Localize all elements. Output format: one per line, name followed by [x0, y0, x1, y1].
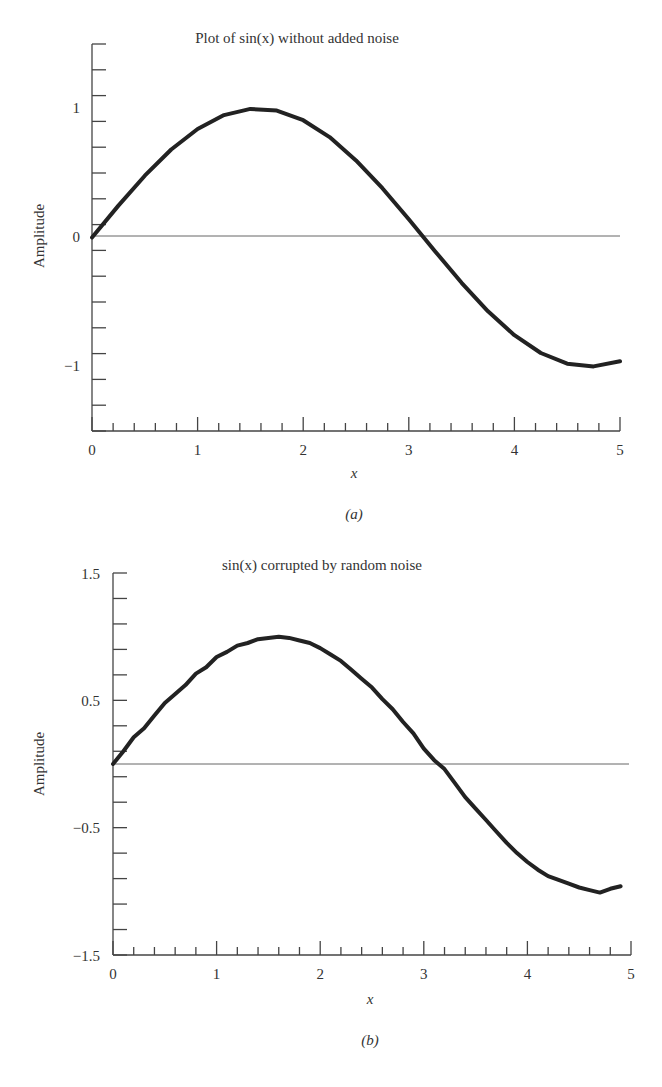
figure-a: Plot of sin(x) without added noise 1 0 −…	[31, 30, 624, 523]
figure-b-ytick-neg1-5: −1.5	[73, 948, 100, 964]
xtick-label: 3	[420, 966, 428, 982]
xtick-label: 3	[405, 442, 413, 458]
figure-a-ytick-1: 1	[73, 100, 81, 116]
figure-b-ylabel: Amplitude	[31, 732, 47, 797]
figure-a-xtick-labels: 012345	[88, 442, 624, 458]
xtick-label: 0	[88, 442, 96, 458]
figure-a-ylabel: Amplitude	[31, 204, 47, 269]
xtick-label: 2	[316, 966, 324, 982]
figure-b-ytick-neg0-5: −0.5	[73, 820, 100, 836]
figure-b-xtick-labels: 012345	[109, 966, 635, 982]
figure-a-title: Plot of sin(x) without added noise	[195, 30, 399, 47]
figure-b-title: sin(x) corrupted by random noise	[222, 557, 422, 574]
figure-b-caption: (b)	[361, 1032, 379, 1049]
figure-a-ytick-0: 0	[73, 229, 81, 245]
xtick-label: 4	[524, 966, 532, 982]
figure-b-xlabel: x	[366, 991, 374, 1007]
xtick-label: 4	[511, 442, 519, 458]
figure-canvas: Plot of sin(x) without added noise 1 0 −…	[0, 0, 662, 1087]
figure-b-ytick-0-5: 0.5	[81, 693, 100, 709]
xtick-label: 2	[299, 442, 307, 458]
xtick-label: 0	[109, 966, 117, 982]
figure-b-ytick-1-5: 1.5	[81, 566, 100, 582]
figure-a-sine-curve	[92, 109, 620, 367]
figure-b-noisy-sine-curve	[113, 637, 621, 893]
xtick-label: 5	[616, 442, 624, 458]
figure-a-xlabel: x	[350, 465, 358, 481]
figure-a-axes	[92, 44, 620, 431]
figure-b: sin(x) corrupted by random noise 1.5 0.5…	[31, 557, 635, 1049]
figure-a-ytick-neg1: −1	[64, 358, 80, 374]
xtick-label: 1	[194, 442, 202, 458]
xtick-label: 5	[627, 966, 635, 982]
xtick-label: 1	[213, 966, 221, 982]
figure-a-caption: (a)	[345, 506, 363, 523]
